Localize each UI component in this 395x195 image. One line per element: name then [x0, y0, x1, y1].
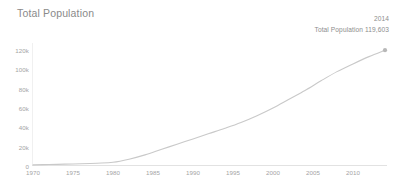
x-axis-tick-label: 1985	[146, 169, 160, 176]
x-axis-tick-label: 1970	[26, 169, 40, 176]
chart-container: Total Population 2014 Total Population 1…	[0, 0, 395, 195]
annotation-value: Total Population 119,603	[315, 24, 390, 35]
chart-annotation: 2014 Total Population 119,603	[315, 13, 390, 35]
page-title: Total Population	[17, 7, 94, 19]
x-axis-tick-label: 1995	[226, 169, 240, 176]
x-axis-tick-label: 1980	[106, 169, 120, 176]
y-axis-tick-label: 100k	[15, 66, 29, 73]
y-axis-tick-label: 80k	[19, 85, 29, 92]
x-axis-tick-label: 1990	[186, 169, 200, 176]
series-endpoint-marker	[383, 48, 387, 52]
x-axis-tick-label: 2005	[306, 169, 320, 176]
series-svg	[33, 45, 385, 166]
y-axis-tick-label: 60k	[19, 104, 29, 111]
y-axis-tick-label: 120k	[15, 46, 29, 53]
x-axis-tick-label: 2000	[266, 169, 280, 176]
annotation-year: 2014	[315, 13, 390, 24]
plot-area: 020k40k60k80k100k120k 197019751980198519…	[33, 45, 385, 166]
series-line-total-population	[33, 50, 385, 165]
x-axis-tick-label: 1975	[66, 169, 80, 176]
y-axis-tick-label: 40k	[19, 124, 29, 131]
x-axis-tick-label: 2010	[346, 169, 360, 176]
y-axis-tick-label: 20k	[19, 143, 29, 150]
